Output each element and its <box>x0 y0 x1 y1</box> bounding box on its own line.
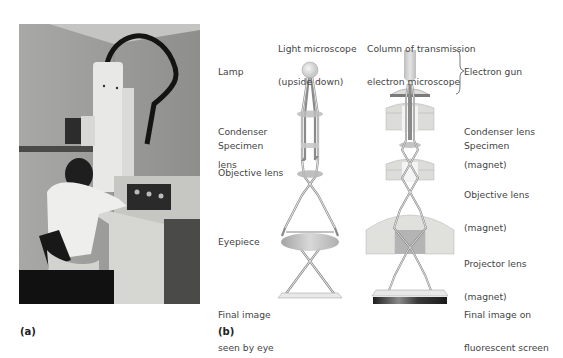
fluorescent-screen-plate <box>372 290 448 296</box>
fluorescent-screen <box>373 297 447 304</box>
title-line: Light microscope <box>278 43 357 54</box>
final-image-plate <box>278 293 342 298</box>
objective-lens-shape <box>297 170 323 178</box>
specimen-shape <box>301 143 319 148</box>
label-final-image-eye: Final image seen by eye <box>218 287 274 358</box>
label-electron-gun: Electron gun <box>464 66 522 77</box>
eyepiece-lens-shape <box>281 233 339 251</box>
label-line: Objective lens <box>464 189 529 200</box>
label-line: Projector lens <box>464 258 527 269</box>
label-line: Condenser lens <box>464 126 535 137</box>
label-objective-lens: Objective lens <box>218 167 283 178</box>
label-final-image-screen: Final image on fluorescent screen <box>464 287 549 358</box>
label-line: Condenser <box>218 126 267 137</box>
label-eyepiece: Eyepiece <box>218 236 260 247</box>
label-line: (magnet) <box>464 222 529 233</box>
title-line: Column of transmission <box>367 43 476 54</box>
label-objective-magnet: Objective lens (magnet) <box>464 167 529 244</box>
label-em-specimen: Specimen <box>464 140 509 151</box>
label-line: seen by eye <box>218 342 274 353</box>
label-lamp: Lamp <box>218 66 244 77</box>
condenser-lens-shape <box>297 111 323 118</box>
panel-label-b: (b) <box>218 326 234 337</box>
panel-label-a: (a) <box>20 326 36 337</box>
electron-microscope-title: Column of transmission electron microsco… <box>367 21 476 98</box>
label-line: fluorescent screen <box>464 342 549 353</box>
title-line: electron microscope <box>367 76 476 87</box>
label-line: Final image on <box>464 309 549 320</box>
label-specimen: Specimen <box>218 140 263 151</box>
title-line: (upside down) <box>278 76 357 87</box>
light-microscope-title: Light microscope (upside down) <box>278 21 357 98</box>
label-line: Final image <box>218 309 274 320</box>
